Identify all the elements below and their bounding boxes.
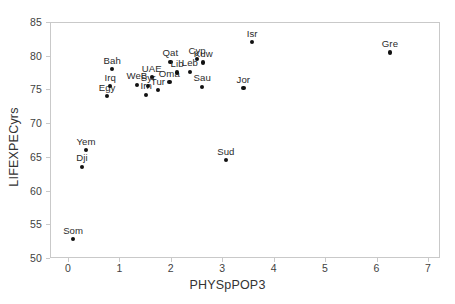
- x-tickmark-2: [171, 258, 172, 262]
- point-label-sud: Sud: [217, 146, 234, 157]
- point-label-kuw: Kuw: [194, 48, 213, 59]
- x-tickmark-3: [222, 258, 223, 262]
- point-label-som: Som: [63, 225, 83, 236]
- x-tickmark-6: [377, 258, 378, 262]
- data-point-gre[interactable]: [388, 50, 392, 54]
- data-point-oma[interactable]: [167, 80, 171, 84]
- data-point-tur[interactable]: [156, 88, 160, 92]
- data-point-sau[interactable]: [200, 85, 204, 89]
- y-tickmark-60: [46, 191, 50, 192]
- x-axis-title: PHYSpPOP3: [0, 278, 455, 292]
- point-label-irq: Irq: [104, 72, 116, 83]
- y-tickmark-85: [46, 22, 50, 23]
- point-label-isr: Isr: [247, 28, 258, 39]
- y-tickmark-65: [46, 157, 50, 158]
- point-label-yem: Yem: [76, 136, 95, 147]
- data-point-web[interactable]: [135, 83, 139, 87]
- data-point-dji[interactable]: [80, 165, 84, 169]
- data-point-isr[interactable]: [250, 40, 254, 44]
- data-point-kuw[interactable]: [201, 60, 205, 64]
- point-label-qat: Qat: [162, 47, 178, 58]
- x-tickmark-1: [119, 258, 120, 262]
- data-point-jor[interactable]: [241, 86, 245, 90]
- x-tickmark-0: [68, 258, 69, 262]
- y-axis-title: LIFEXPECyrs: [7, 87, 21, 207]
- point-label-dji: Dji: [76, 152, 88, 163]
- point-label-bah: Bah: [104, 55, 121, 66]
- y-tickmark-80: [46, 56, 50, 57]
- scatter-chart: 5055606570758085 01234567 SomDjiYemEgyIr…: [0, 0, 455, 304]
- y-tickmark-50: [46, 258, 50, 259]
- point-label-gre: Gre: [382, 38, 398, 49]
- x-tickmark-7: [428, 258, 429, 262]
- data-point-irn[interactable]: [144, 93, 148, 97]
- y-tickmark-70: [46, 123, 50, 124]
- data-point-som[interactable]: [71, 237, 75, 241]
- y-tickmark-75: [46, 89, 50, 90]
- x-tickmark-4: [274, 258, 275, 262]
- point-label-sau: Sau: [194, 72, 211, 83]
- point-label-egy: Egy: [99, 82, 116, 93]
- data-point-leb[interactable]: [188, 70, 192, 74]
- data-point-egy[interactable]: [105, 94, 109, 98]
- data-point-sud[interactable]: [224, 158, 228, 162]
- point-label-jor: Jor: [237, 74, 251, 85]
- data-point-lib[interactable]: [175, 70, 179, 74]
- y-tickmark-55: [46, 224, 50, 225]
- x-tickmark-5: [325, 258, 326, 262]
